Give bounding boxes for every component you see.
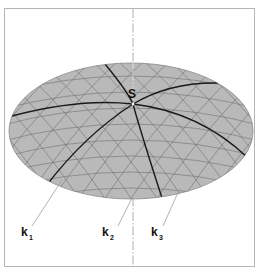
apex-point [132, 103, 135, 106]
svg-text:3: 3 [159, 234, 163, 241]
dome-diagram: S k 1 k 2 k 3 [0, 0, 261, 275]
leader-k1 [32, 180, 62, 226]
label-k1: k 1 [21, 225, 33, 241]
label-k3: k 3 [151, 225, 163, 241]
grid-line [253, 56, 261, 211]
apex-label: S [128, 87, 136, 101]
svg-text:2: 2 [110, 234, 114, 241]
grid-line [0, 56, 9, 211]
svg-text:k: k [151, 225, 158, 239]
label-k2: k 2 [102, 225, 114, 241]
svg-text:k: k [102, 225, 109, 239]
svg-text:k: k [21, 225, 28, 239]
svg-text:1: 1 [29, 234, 33, 241]
grid-line [0, 204, 261, 222]
